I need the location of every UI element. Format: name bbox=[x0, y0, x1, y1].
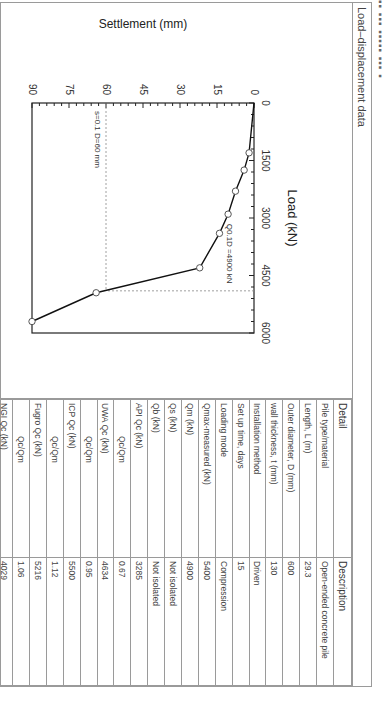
table-row: Qb (kN)Not isolated bbox=[148, 400, 165, 686]
header-detail: Detail bbox=[334, 400, 352, 558]
detail-cell: Installation method bbox=[249, 400, 266, 558]
table-row: Qc/Qm0.67 bbox=[114, 400, 131, 686]
description-cell: 29.3 bbox=[300, 558, 317, 686]
rotated-page: ▪▪ ▪▪▪ ▪▪▪▪▪ ▪▪▪ ▪ Load–displacement dat… bbox=[0, 0, 386, 724]
description-cell: 130 bbox=[266, 558, 283, 686]
cropped-title-strip: ▪▪ ▪▪▪ ▪▪▪▪▪ ▪▪▪ ▪ bbox=[376, 0, 386, 724]
description-cell: 5400 bbox=[198, 558, 215, 686]
table-row: Outer diameter, D (mm)600 bbox=[283, 400, 300, 686]
description-cell: 0.95 bbox=[80, 558, 97, 686]
x-tick-label: 0 bbox=[260, 100, 271, 106]
data-point-marker bbox=[197, 265, 203, 271]
caption: Load–displacement data bbox=[352, 3, 371, 686]
table-row: Qc/Qm0.95 bbox=[80, 400, 97, 686]
description-cell: Not isolated bbox=[165, 558, 182, 686]
detail-cell: Qc/Qm bbox=[80, 400, 97, 558]
data-point-marker bbox=[246, 150, 252, 156]
description-cell: 1.06 bbox=[13, 558, 30, 686]
data-point-marker bbox=[216, 230, 222, 236]
description-cell: 1.12 bbox=[46, 558, 63, 686]
detail-cell: Outer diameter, D (mm) bbox=[283, 400, 300, 558]
table-row: Qc/Qm1.06 bbox=[13, 400, 30, 686]
load-settlement-curve bbox=[32, 103, 254, 322]
description-cell: 4900 bbox=[181, 558, 198, 686]
description-cell: 4029 bbox=[0, 558, 13, 686]
load-settlement-chart: 015003000450060000153045607590Load (kN)S… bbox=[1, 3, 352, 399]
detail-cell: Pile type/material bbox=[317, 400, 334, 558]
table-row: Qmax-measured (kN)5400 bbox=[198, 400, 215, 686]
detail-cell: Fugro Qc (kN) bbox=[29, 400, 46, 558]
detail-cell: UWA Qc (kN) bbox=[97, 400, 114, 558]
detail-cell: Set up time, days bbox=[232, 400, 249, 558]
detail-cell: Qm (kN) bbox=[181, 400, 198, 558]
description-cell: 3285 bbox=[131, 558, 148, 686]
plot-frame bbox=[32, 103, 254, 333]
y-tick-label: 75 bbox=[64, 84, 75, 96]
description-cell: Open-ended concrete pile bbox=[317, 558, 334, 686]
header-description: Description bbox=[334, 558, 352, 686]
data-point-marker bbox=[29, 318, 35, 324]
description-cell: 15 bbox=[232, 558, 249, 686]
detail-cell: Qc/Qm bbox=[46, 400, 63, 558]
y-axis-label: Settlement (mm) bbox=[99, 17, 188, 31]
capacity-label: Q0.1D =4900 kN bbox=[225, 224, 234, 284]
x-tick-label: 1500 bbox=[260, 149, 271, 172]
figure-table-frame: Load–displacement data 01500300045006000… bbox=[0, 2, 372, 687]
table-row: Loading modeCompression bbox=[215, 400, 232, 686]
description-cell: 5500 bbox=[63, 558, 80, 686]
data-point-marker bbox=[225, 211, 231, 217]
y-tick-label: 15 bbox=[212, 84, 223, 96]
table-row: API Qc (kN)3285 bbox=[131, 400, 148, 686]
description-cell: Driven bbox=[249, 558, 266, 686]
settlement-criterion-label: s=0.1 D=60 mm bbox=[93, 111, 102, 168]
data-point-marker bbox=[241, 167, 247, 173]
detail-cell: Qc/Qm bbox=[13, 400, 30, 558]
y-tick-label: 45 bbox=[138, 84, 149, 96]
chart-svg: 015003000450060000153045607590Load (kN)S… bbox=[1, 3, 352, 398]
table-row: Qs (kN)Not isolated bbox=[165, 400, 182, 686]
pile-detail-table: Detail Description Pile type/materialOpe… bbox=[0, 399, 352, 686]
description-cell: 5216 bbox=[29, 558, 46, 686]
description-cell: Not isolated bbox=[148, 558, 165, 686]
table-row: ICP Qc (kN)5500 bbox=[63, 400, 80, 686]
detail-cell: ICP Qc (kN) bbox=[63, 400, 80, 558]
table-row: UWA Qc (kN)4634 bbox=[97, 400, 114, 686]
detail-cell: Qb (kN) bbox=[148, 400, 165, 558]
table-row: Pile type/materialOpen-ended concrete pi… bbox=[317, 400, 334, 686]
data-point-marker bbox=[232, 188, 238, 194]
description-cell: 600 bbox=[283, 558, 300, 686]
description-cell: 0.67 bbox=[114, 558, 131, 686]
x-axis-label: Load (kN) bbox=[285, 189, 300, 246]
table-header-row: Detail Description bbox=[334, 400, 352, 686]
x-tick-label: 3000 bbox=[260, 207, 271, 230]
pile-detail-table-area: Detail Description Pile type/materialOpe… bbox=[1, 399, 352, 686]
detail-cell: Loading mode bbox=[215, 400, 232, 558]
table-row: Fugro Qc (kN)5216 bbox=[29, 400, 46, 686]
detail-cell: Qs (kN) bbox=[165, 400, 182, 558]
y-tick-label: 30 bbox=[175, 84, 186, 96]
table-row: Qc/Qm1.12 bbox=[46, 400, 63, 686]
detail-cell: Length, L (m) bbox=[300, 400, 317, 558]
y-tick-label: 60 bbox=[101, 84, 112, 96]
detail-cell: wall thickness, t (mm) bbox=[266, 400, 283, 558]
table-row: Set up time, days15 bbox=[232, 400, 249, 686]
detail-cell: NGI Qc (kN) bbox=[0, 400, 13, 558]
table-row: NGI Qc (kN)4029 bbox=[0, 400, 13, 686]
detail-cell: API Qc (kN) bbox=[131, 400, 148, 558]
table-row: Installation methodDriven bbox=[249, 400, 266, 686]
description-cell: 4634 bbox=[97, 558, 114, 686]
detail-cell: Qmax-measured (kN) bbox=[198, 400, 215, 558]
description-cell: Compression bbox=[215, 558, 232, 686]
data-point-marker bbox=[93, 290, 99, 296]
y-tick-label: 90 bbox=[27, 84, 38, 96]
detail-cell: Qc/Qm bbox=[114, 400, 131, 558]
x-tick-label: 4500 bbox=[260, 264, 271, 287]
table-row: wall thickness, t (mm)130 bbox=[266, 400, 283, 686]
y-tick-label: 0 bbox=[249, 89, 260, 95]
table-row: Length, L (m)29.3 bbox=[300, 400, 317, 686]
x-tick-label: 6000 bbox=[260, 322, 271, 345]
table-row: Qm (kN)4900 bbox=[181, 400, 198, 686]
table-body: Pile type/materialOpen-ended concrete pi… bbox=[0, 400, 334, 686]
